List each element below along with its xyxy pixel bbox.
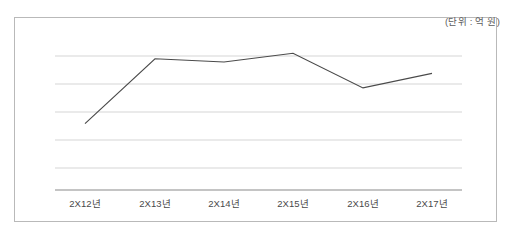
x-axis-labels: 2X12년 2X13년 2X14년 2X15년 2X16년 2X17년 — [0, 196, 511, 214]
x-axis-label: 2X12년 — [69, 196, 101, 210]
x-axis-label: 2X13년 — [139, 196, 171, 210]
chart-figure: (단위 : 억 원) 2X12년 2X13년 2X14년 2X15년 2X16년… — [0, 0, 511, 239]
x-axis-label: 2X15년 — [277, 196, 309, 210]
x-axis-label: 2X17년 — [416, 196, 448, 210]
unit-note-label: (단위 : 억 원) — [445, 14, 500, 28]
x-axis-label: 2X14년 — [208, 196, 240, 210]
x-axis-label: 2X16년 — [347, 196, 379, 210]
chart-frame — [14, 17, 497, 222]
